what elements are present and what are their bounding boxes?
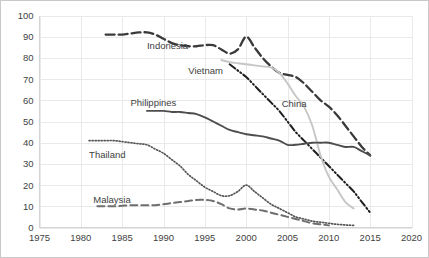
x-tick-2020: 2020	[401, 232, 422, 243]
series-label-vietnam: Vietnam	[188, 65, 223, 76]
x-tick-1995: 1995	[194, 232, 215, 243]
x-tick-2005: 2005	[277, 232, 298, 243]
y-tick-90: 90	[23, 31, 34, 42]
series-label-thailand: Thailand	[89, 149, 125, 160]
series-label-indonesia: Indonesia	[147, 40, 189, 51]
x-tick-2010: 2010	[318, 232, 339, 243]
series-line-thailand	[89, 141, 354, 226]
x-tick-1975: 1975	[29, 232, 50, 243]
x-tick-2015: 2015	[360, 232, 381, 243]
series-line-vietnam	[230, 64, 371, 212]
y-tick-60: 60	[23, 95, 34, 106]
chart-frame: 0102030405060708090100 19751980198519901…	[0, 0, 429, 258]
y-tick-80: 80	[23, 52, 34, 63]
y-axis-tick-labels: 0102030405060708090100	[18, 10, 34, 233]
x-tick-2000: 2000	[236, 232, 257, 243]
line-chart: 0102030405060708090100 19751980198519901…	[1, 1, 429, 258]
series-line-malaysia	[97, 200, 328, 226]
y-tick-20: 20	[23, 180, 34, 191]
y-tick-70: 70	[23, 74, 34, 85]
y-tick-30: 30	[23, 158, 34, 169]
series-label-china: China	[282, 98, 308, 109]
series-lines	[89, 32, 370, 225]
y-tick-100: 100	[18, 10, 34, 21]
y-tick-50: 50	[23, 116, 34, 127]
x-axis-tick-labels: 1975198019851990199520002005201020152020	[29, 232, 422, 243]
x-tick-1990: 1990	[153, 232, 174, 243]
y-tick-40: 40	[23, 137, 34, 148]
x-tick-1980: 1980	[70, 232, 91, 243]
x-tick-1985: 1985	[112, 232, 133, 243]
series-line-philippines	[147, 111, 370, 156]
series-line-china	[221, 60, 353, 208]
series-label-philippines: Philippines	[130, 97, 176, 108]
y-tick-10: 10	[23, 201, 34, 212]
series-label-malaysia: Malaysia	[93, 194, 131, 205]
series-line-indonesia	[106, 32, 371, 155]
